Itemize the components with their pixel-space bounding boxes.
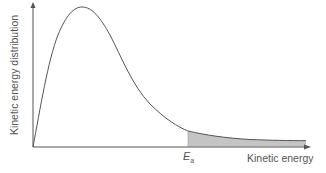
activation-energy-shaded-area	[188, 131, 306, 147]
x-axis-arrow-icon	[304, 145, 311, 150]
activation-energy-label: Ea	[183, 150, 194, 164]
y-axis-arrow-icon	[31, 2, 36, 8]
x-axis-label: Kinetic energy	[247, 152, 314, 164]
ea-subscript: a	[190, 157, 194, 164]
distribution-curve	[33, 7, 306, 147]
y-axis-label: Kinetic energy distribution	[8, 15, 20, 135]
distribution-chart	[0, 0, 326, 173]
